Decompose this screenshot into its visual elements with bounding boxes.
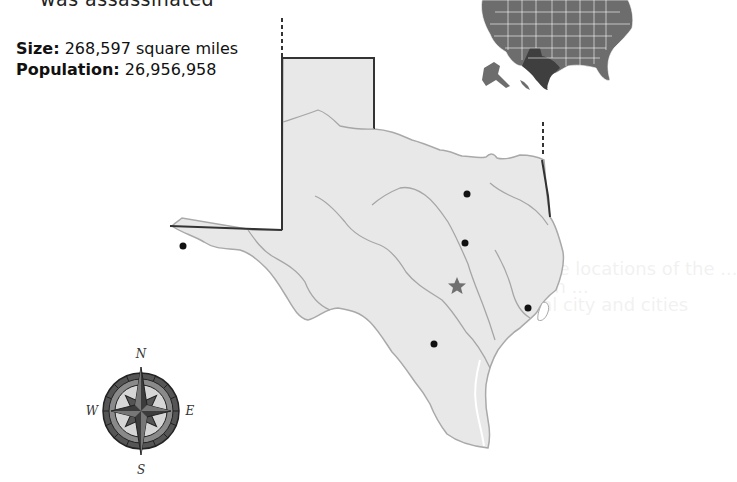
compass-label-north: N bbox=[135, 347, 147, 361]
city-dot bbox=[462, 240, 469, 247]
city-dot bbox=[525, 305, 532, 312]
compass-label-south: S bbox=[137, 463, 145, 477]
compass-label-west: W bbox=[86, 404, 100, 418]
city-dot bbox=[180, 243, 187, 250]
texas-shape bbox=[172, 58, 563, 448]
city-dot bbox=[464, 191, 471, 198]
compass-label-east: E bbox=[185, 404, 195, 418]
hawaii bbox=[520, 80, 530, 90]
compass-rose bbox=[103, 367, 179, 455]
usa-inset-map bbox=[481, 0, 632, 90]
city-dot bbox=[431, 341, 438, 348]
alaska bbox=[482, 62, 510, 88]
